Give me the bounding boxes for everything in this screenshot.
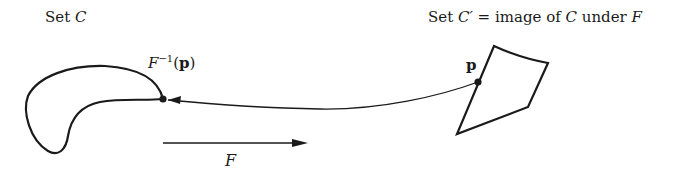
preimage-point	[159, 95, 166, 102]
map-symbol-ref: F	[632, 8, 642, 26]
preimage-arg: p	[179, 54, 190, 72]
set-c-region	[26, 66, 163, 153]
set-c-prime-label: Set C′ = image of C under F	[428, 10, 642, 25]
set-c-symbol: C	[75, 8, 86, 26]
preimage-label: F−1(p)	[148, 54, 195, 71]
set-c-prime-prefix: Set	[428, 8, 458, 26]
arrowhead-icon	[168, 96, 181, 104]
set-c-symbol-ref: C	[566, 8, 577, 26]
preimage-exponent: −1	[158, 53, 173, 64]
set-c-prime-symbol: C′	[458, 8, 473, 26]
point-p-label: p	[466, 58, 477, 73]
set-c-prime-text-2: under	[577, 8, 632, 26]
arrow-right-icon	[292, 139, 308, 147]
set-c-prime-text: = image of	[473, 8, 566, 26]
map-arrow-label: F	[225, 153, 236, 169]
paren-close: )	[190, 54, 196, 72]
set-c-label: Set C	[45, 10, 86, 25]
diagram-canvas	[0, 0, 688, 176]
set-c-prefix: Set	[45, 8, 75, 26]
inverse-map-curve	[168, 82, 478, 109]
point-p	[474, 78, 481, 85]
preimage-func: F	[148, 54, 158, 72]
